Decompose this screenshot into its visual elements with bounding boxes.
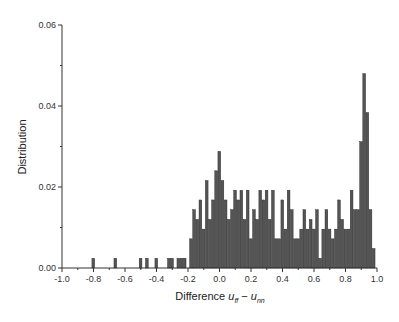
histogram-bar: [334, 229, 337, 268]
histogram-bar: [249, 239, 252, 268]
histogram-bar: [262, 200, 265, 268]
y-tick-label: 0.00: [38, 263, 56, 273]
histogram-bar: [215, 171, 218, 268]
histogram-bar: [256, 219, 259, 268]
histogram-bar: [268, 219, 271, 268]
histogram-bar: [227, 219, 230, 268]
histogram-bar: [331, 239, 334, 268]
x-axis-label: Difference uff − unn: [175, 290, 265, 304]
histogram-bar: [224, 200, 227, 268]
histogram-bar: [369, 210, 372, 268]
histogram-bar: [341, 219, 344, 268]
histogram-bar: [234, 190, 237, 268]
histogram-bar: [196, 219, 199, 268]
histogram-bar: [290, 210, 293, 268]
x-tick-label: 0.4: [276, 274, 289, 284]
x-tick-label: 0.6: [308, 274, 321, 284]
histogram-bar: [114, 258, 117, 268]
histogram-bar: [297, 239, 300, 268]
histogram-bar: [322, 229, 325, 268]
histogram-bar: [350, 190, 353, 268]
histogram-bar: [312, 229, 315, 268]
histogram-bar: [171, 258, 174, 268]
histogram-bar: [275, 239, 278, 268]
x-tick-label: -0.8: [86, 274, 102, 284]
histogram-bar: [180, 258, 183, 268]
histogram-bar: [212, 200, 215, 268]
histogram-bar: [372, 249, 375, 268]
histogram-bar: [253, 210, 256, 268]
histogram-bar: [328, 229, 331, 268]
y-tick-label: 0.02: [38, 182, 56, 192]
histogram-bar: [168, 258, 171, 268]
histogram-bar: [240, 190, 243, 268]
y-tick-label: 0.06: [38, 20, 56, 30]
histogram-bar: [205, 181, 208, 268]
x-tick-label: -0.6: [117, 274, 133, 284]
histogram-bar: [243, 219, 246, 268]
histogram-bar: [231, 210, 234, 268]
histogram-bar: [309, 219, 312, 268]
y-tick-label: 0.04: [38, 101, 56, 111]
x-tick-label: -1.0: [54, 274, 70, 284]
histogram-bar: [145, 258, 148, 268]
histogram-bar: [183, 258, 186, 268]
y-axis-label: Distribution: [16, 119, 28, 174]
histogram-bar: [347, 229, 350, 268]
histogram-bar: [237, 200, 240, 268]
histogram-bar: [357, 210, 360, 268]
histogram-bar: [284, 229, 287, 268]
x-tick-label: 0.0: [213, 274, 226, 284]
x-tick-label: 1.0: [371, 274, 384, 284]
histogram-bar: [208, 219, 211, 268]
histogram-bar: [366, 112, 369, 268]
histogram-bar: [338, 200, 341, 268]
histogram-bar: [218, 151, 221, 268]
histogram-bar: [344, 229, 347, 268]
histogram-bar: [246, 190, 249, 268]
histogram-bar: [265, 190, 268, 268]
histogram-bar: [303, 210, 306, 268]
x-tick-label: -0.4: [149, 274, 165, 284]
histogram-bar: [92, 258, 95, 268]
x-tick-label: 0.8: [339, 274, 352, 284]
histogram-bar: [155, 258, 158, 268]
histogram-bar: [259, 190, 262, 268]
x-tick-label: 0.2: [245, 274, 258, 284]
histogram-bar: [190, 239, 193, 268]
histogram-bar: [363, 74, 366, 268]
histogram-bar: [278, 239, 281, 268]
y-axis-ticks: 0.000.020.040.06: [38, 20, 62, 273]
histogram-bar: [325, 210, 328, 268]
histogram-chart: 0.000.020.040.06 -1.0-0.8-0.6-0.4-0.20.0…: [0, 0, 399, 322]
histogram-bar: [199, 200, 202, 268]
histogram-bar: [202, 229, 205, 268]
histogram-bar: [316, 210, 319, 268]
histogram-bar: [193, 210, 196, 268]
histogram-bar: [300, 229, 303, 268]
x-tick-label: -0.2: [180, 274, 196, 284]
histogram-bar: [281, 200, 284, 268]
histogram-bar: [294, 239, 297, 268]
histogram-bar: [306, 229, 309, 268]
histogram-bar: [319, 258, 322, 268]
histogram-bars: [92, 74, 375, 268]
x-axis-ticks: -1.0-0.8-0.6-0.4-0.20.00.20.40.60.81.0: [54, 268, 383, 284]
histogram-bar: [360, 142, 363, 268]
histogram-bar: [139, 258, 142, 268]
histogram-bar: [221, 181, 224, 268]
histogram-bar: [287, 190, 290, 268]
histogram-bar: [353, 210, 356, 268]
histogram-bar: [271, 190, 274, 268]
histogram-bar: [177, 258, 180, 268]
